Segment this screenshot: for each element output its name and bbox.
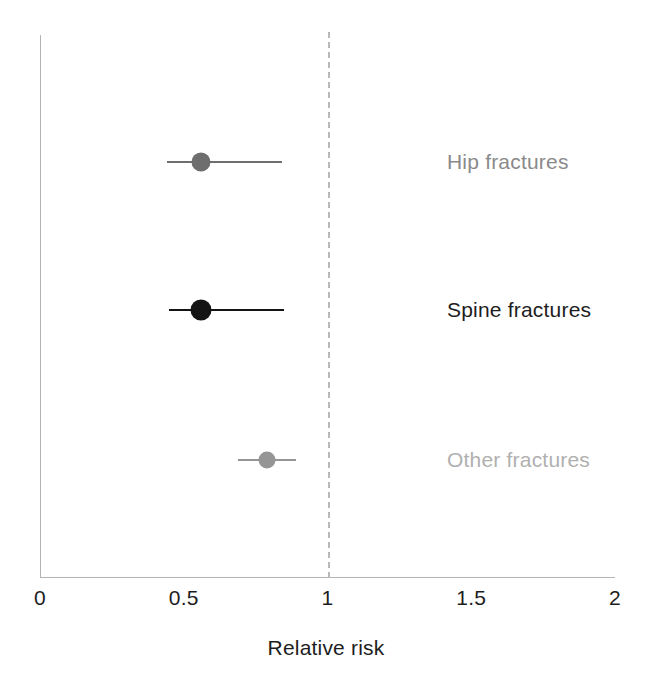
series-label: Hip fractures <box>447 150 569 174</box>
confidence-interval-line <box>169 309 284 311</box>
forest-plot: 00.511.52 Hip fracturesSpine fracturesOt… <box>0 0 652 690</box>
series-label: Other fractures <box>447 448 590 472</box>
x-tick-label: 1.5 <box>456 586 486 610</box>
reference-line-at-one <box>328 32 330 578</box>
x-tick-label: 1 <box>322 586 334 610</box>
y-axis-line <box>40 35 41 578</box>
estimate-marker <box>259 452 276 469</box>
x-tick-label: 2 <box>609 586 621 610</box>
confidence-interval-line <box>167 161 282 163</box>
series-label: Spine fractures <box>447 298 591 322</box>
estimate-marker <box>192 153 211 172</box>
estimate-marker <box>191 300 212 321</box>
x-tick-label: 0.5 <box>169 586 199 610</box>
x-axis-title: Relative risk <box>0 636 652 660</box>
x-tick-label: 0 <box>34 586 46 610</box>
